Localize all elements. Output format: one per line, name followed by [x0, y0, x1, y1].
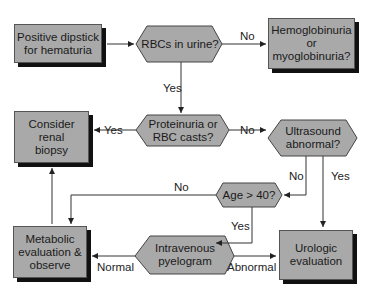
edge-label-proteinuria-no: No	[240, 124, 255, 137]
edge-label-age-yes: Yes	[231, 220, 250, 233]
hematuria-flowchart: Positive dipstick for hematuria Hemoglob…	[0, 0, 373, 289]
edge-label-rbcs-no: No	[240, 30, 255, 43]
ivp-decision-shape	[135, 236, 234, 274]
urologic-evaluation-node: Urologic evaluation	[279, 230, 353, 280]
metabolic-evaluation-node: Metabolic evaluation & observe	[13, 226, 87, 278]
edge-label-ivp-abnormal: Abnormal	[227, 261, 276, 274]
renal-biopsy-node: Consider renal biopsy	[14, 111, 89, 163]
urologic-line-1: Urologic	[290, 242, 342, 255]
hemo-line-3: myoglobinuria?	[271, 50, 352, 63]
rbcs-decision-shape	[136, 26, 222, 62]
metabolic-line-2: evaluation &	[18, 246, 81, 259]
metabolic-line-3: observe	[18, 259, 81, 272]
edge-label-age-no: No	[174, 181, 189, 194]
biopsy-line-1: Consider	[28, 118, 74, 131]
start-node: Positive dipstick for hematuria	[14, 24, 102, 63]
edge-label-ultrasound-no: No	[289, 170, 304, 183]
biopsy-line-3: biopsy	[28, 144, 74, 157]
hemo-line-2: or	[271, 37, 352, 50]
hemoglobinuria-node: Hemoglobinuria or myoglobinuria?	[268, 18, 355, 69]
edge-label-rbcs-yes: Yes	[163, 82, 182, 95]
edge-label-ultrasound-yes: Yes	[331, 170, 350, 183]
start-line-2: for hematuria	[17, 44, 99, 57]
ultrasound-decision-shape	[268, 120, 357, 156]
hemo-line-1: Hemoglobinuria	[271, 24, 352, 37]
proteinuria-decision-shape	[136, 115, 229, 146]
age-decision-shape	[216, 183, 282, 207]
biopsy-line-2: renal	[28, 131, 74, 144]
edge-label-proteinuria-yes: Yes	[104, 124, 123, 137]
edge-label-ivp-normal: Normal	[97, 261, 134, 274]
urologic-line-2: evaluation	[290, 255, 342, 268]
start-line-1: Positive dipstick	[17, 31, 99, 44]
metabolic-line-1: Metabolic	[18, 233, 81, 246]
